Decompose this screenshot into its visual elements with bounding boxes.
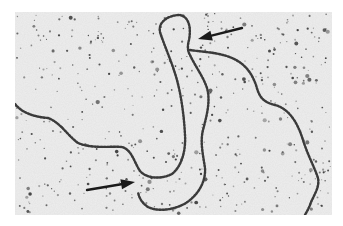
micrograph-image [15, 12, 332, 215]
micrograph-canvas [15, 12, 332, 215]
